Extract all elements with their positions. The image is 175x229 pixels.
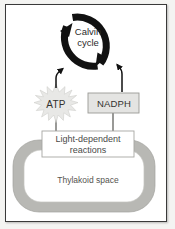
nadph-label: NADPH xyxy=(90,99,138,110)
ldr-line2: reactions xyxy=(70,145,107,155)
calvin-cycle-line1: Calvin xyxy=(75,26,101,37)
figure-root: Calvincycle ATP NADPH Light-dependentrea… xyxy=(0,0,175,229)
ldr-line1: Light-dependent xyxy=(55,134,120,144)
light-dependent-reactions-label: Light-dependentreactions xyxy=(44,134,132,157)
thylakoid-space-label: Thylakoid space xyxy=(40,176,136,186)
diagram-stage: Calvincycle ATP NADPH Light-dependentrea… xyxy=(0,0,175,229)
atp-label: ATP xyxy=(36,99,76,110)
arrow-nadph-to-calvin xyxy=(117,65,122,93)
arrow-atp-to-calvin xyxy=(56,69,63,89)
calvin-cycle-line2: cycle xyxy=(77,37,99,48)
calvin-cycle-label: Calvincycle xyxy=(58,27,118,48)
